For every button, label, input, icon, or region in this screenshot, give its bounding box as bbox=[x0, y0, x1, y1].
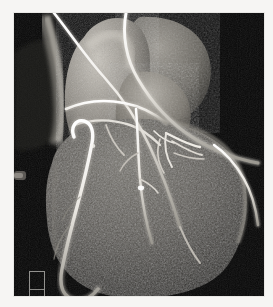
cardiac-volume-render bbox=[14, 13, 264, 296]
volume-render-viewer[interactable]: Volume-rendered cardiac CT angiography o… bbox=[0, 0, 273, 307]
render-canvas[interactable] bbox=[14, 13, 264, 296]
page-title: Volume-rendered cardiac CT angiography o… bbox=[0, 21, 1, 22]
